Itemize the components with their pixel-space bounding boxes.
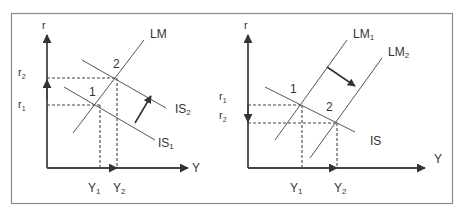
right-point-2-label: 2 — [326, 100, 333, 114]
diagram-frame — [12, 14, 453, 204]
left-point-2-label: 2 — [113, 57, 120, 71]
is-shift-arrow — [135, 96, 151, 123]
lm-label: LM — [150, 27, 167, 41]
right-r-axis-label: r — [244, 19, 248, 31]
lm-shift-arrow — [327, 67, 355, 86]
right-point-1-label: 1 — [290, 82, 297, 96]
is1-label: IS1 — [158, 136, 174, 151]
left-panel: r Y r2 r1 Y1 Y2 LM IS2 IS1 1 2 — [18, 19, 200, 196]
right-y2-label: Y2 — [334, 181, 347, 196]
is2-label: IS2 — [175, 102, 191, 117]
is-curve — [265, 87, 355, 132]
right-r1-label: r1 — [219, 90, 227, 104]
right-panel: r Y r1 r2 Y1 Y2 LM1 LM2 IS 1 2 — [219, 19, 442, 196]
is-lm-diagram: r Y r2 r1 Y1 Y2 LM IS2 IS1 1 2 r Y r1 — [0, 0, 462, 215]
left-r-axis-label: r — [42, 19, 46, 31]
left-r2-label: r2 — [18, 66, 26, 80]
right-r2-label: r2 — [219, 109, 227, 123]
lm1-curve — [275, 40, 347, 140]
left-y1-label: Y1 — [88, 181, 101, 196]
left-y2-label: Y2 — [113, 181, 126, 196]
right-y1-label: Y1 — [290, 181, 303, 196]
is2-curve — [82, 60, 166, 108]
lm2-label: LM2 — [388, 45, 410, 60]
left-point-1-label: 1 — [89, 85, 96, 99]
left-r1-label: r1 — [18, 98, 26, 112]
right-y-axis-label: Y — [434, 152, 442, 166]
lm1-label: LM1 — [353, 27, 375, 42]
lm-curve — [73, 40, 144, 133]
is-label: IS — [370, 134, 381, 148]
left-y-axis-label: Y — [192, 161, 200, 175]
